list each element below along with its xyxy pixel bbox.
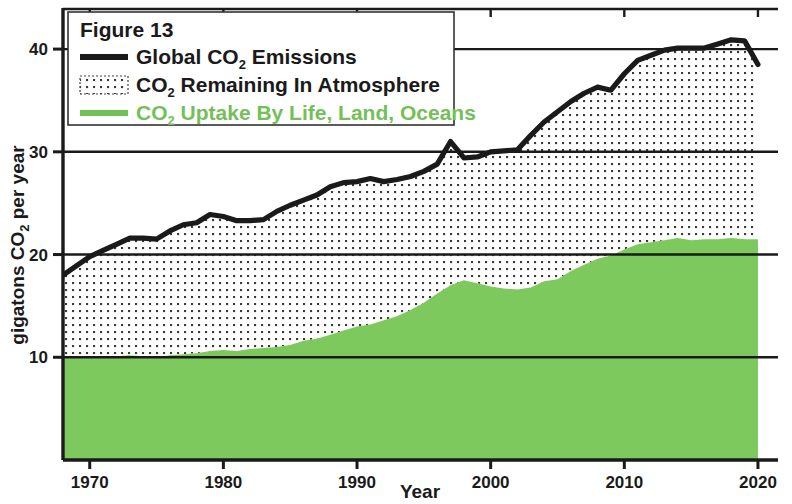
chart-figure: 197019801990200020102020 10203040 Year g… <box>0 0 792 504</box>
x-tick-label-1980: 1980 <box>204 473 242 492</box>
x-axis-title: Year <box>400 481 441 502</box>
y-axis-ticks: 10203040 <box>29 40 63 367</box>
y-tick-label-10: 10 <box>29 348 48 367</box>
x-tick-label-1990: 1990 <box>338 473 376 492</box>
x-tick-label-2000: 2000 <box>472 473 510 492</box>
x-tick-label-1970: 1970 <box>71 473 109 492</box>
x-tick-label-2020: 2020 <box>739 473 777 492</box>
legend-title: Figure 13 <box>80 18 173 41</box>
legend-swatch-remaining <box>80 76 128 94</box>
y-tick-label-20: 20 <box>29 246 48 265</box>
legend-label-uptake: CO2 Uptake By Life, Land, Oceans <box>136 101 476 128</box>
y-tick-label-40: 40 <box>29 40 48 59</box>
legend: Figure 13 Global CO2 Emissions CO2 Remai… <box>68 12 476 128</box>
legend-label-emissions: Global CO2 Emissions <box>136 45 357 72</box>
legend-label-remaining: CO2 Remaining In Atmosphere <box>136 73 440 100</box>
x-tick-label-2010: 2010 <box>605 473 643 492</box>
co2-emissions-chart: 197019801990200020102020 10203040 Year g… <box>0 0 792 504</box>
y-tick-label-30: 30 <box>29 143 48 162</box>
